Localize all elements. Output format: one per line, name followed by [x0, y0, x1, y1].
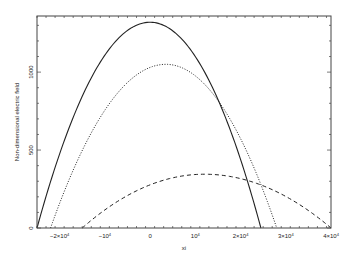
curve-dotted [51, 64, 277, 228]
x-axis-label: xi [182, 245, 186, 251]
plot-frame [37, 16, 331, 228]
x-tick-label: 104 [191, 232, 201, 240]
curve-solid [37, 22, 261, 228]
x-tick-label: −104 [99, 232, 112, 240]
x-axis-ticks: −2×104−10401042×1043×1044×104 [37, 16, 340, 239]
x-tick-label: 0 [148, 233, 152, 239]
curve-dashed [82, 174, 331, 228]
y-axis-label: Non-dimensional electric field [14, 83, 20, 161]
y-tick-label: 500 [28, 144, 34, 155]
y-tick-label: 0 [28, 226, 34, 230]
plot-curves [37, 22, 331, 228]
y-axis-ticks: 05001000 [28, 25, 331, 229]
x-tick-label: 3×104 [278, 232, 295, 240]
y-tick-label: 1000 [28, 65, 34, 79]
x-tick-label: 4×104 [323, 232, 340, 240]
x-tick-label: −2×104 [50, 232, 70, 240]
chart: −2×104−10401042×1043×1044×104 05001000 x… [0, 0, 357, 260]
x-tick-label: 2×104 [233, 232, 250, 240]
